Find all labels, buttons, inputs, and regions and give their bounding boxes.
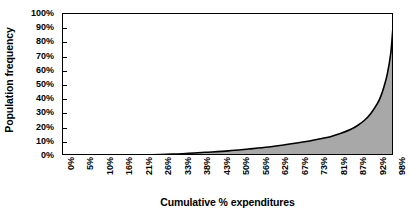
y-axis-tick-mark [63,85,67,86]
x-axis-tick-label-text: 73% [319,157,329,175]
x-axis-tick-label-text: 43% [222,157,232,175]
x-axis-tick-label-text: 0% [66,157,76,170]
x-axis-tick-label-text: 67% [300,157,310,175]
area-chart-plot [63,14,393,155]
x-axis-tick-label-text: 16% [124,157,134,175]
y-axis-title: Population frequency [0,0,18,160]
y-axis-tick-label: 80% [36,36,54,46]
x-axis-tick-label: 73% [319,157,329,175]
x-axis-tick-label-text: 10% [105,157,115,175]
x-axis-tick-labels: 0%5%10%16%21%26%33%38%43%50%56%62%67%73%… [62,157,393,193]
x-axis-tick-label: 98% [397,157,407,175]
x-axis-tick-label-text: 87% [358,157,368,175]
x-axis-tick-label: 21% [144,157,154,175]
y-axis-tick-label: 20% [36,122,54,132]
y-axis-tick-mark [63,57,67,58]
x-axis-tick-label: 43% [222,157,232,175]
x-axis-tick-label: 92% [378,157,388,175]
y-axis-tick-mark [63,128,67,129]
y-axis-tick-mark [63,142,67,143]
plot-area [62,13,393,155]
x-axis-tick-label-text: 26% [163,157,173,175]
x-axis-tick-label-text: 92% [378,157,388,175]
x-axis-tick-label: 38% [202,157,212,175]
y-axis-tick-label: 90% [36,22,54,32]
y-axis-tick-label: 10% [36,136,54,146]
x-axis-tick-label-text: 81% [339,157,349,175]
x-axis-title: Cumulative % expenditures [62,196,393,208]
x-axis-tick-label-text: 5% [85,157,95,170]
x-axis-tick-label: 50% [241,157,251,175]
x-axis-tick-label-text: 50% [241,157,251,175]
x-axis-tick-label: 87% [358,157,368,175]
x-axis-tick-label: 5% [85,157,95,170]
y-axis-tick-mark [63,42,67,43]
y-axis-tick-mark [63,28,67,29]
x-axis-tick-label: 81% [339,157,349,175]
x-axis-tick-label: 67% [300,157,310,175]
y-axis-tick-mark [63,99,67,100]
y-axis-tick-label: 30% [36,107,54,117]
x-axis-tick-label-text: 33% [183,157,193,175]
x-axis-tick-label: 16% [124,157,134,175]
x-axis-tick-label-text: 38% [202,157,212,175]
y-axis-title-text: Population frequency [3,27,15,132]
area-series-fill [63,14,393,155]
y-axis-tick-label: 100% [31,8,54,18]
y-axis-tick-label: 50% [36,79,54,89]
x-axis-tick-label: 62% [280,157,290,175]
x-axis-tick-label: 33% [183,157,193,175]
y-axis-tick-mark [63,113,67,114]
x-axis-tick-label: 10% [105,157,115,175]
x-axis-tick-label-text: 62% [280,157,290,175]
y-axis-tick-label: 60% [36,65,54,75]
y-axis-tick-mark [63,71,67,72]
x-axis-tick-label-text: 21% [144,157,154,175]
y-axis-tick-label: 40% [36,93,54,103]
x-axis-tick-label-text: 98% [397,157,407,175]
y-axis-tick-label: 70% [36,51,54,61]
x-axis-tick-label: 26% [163,157,173,175]
x-axis-tick-label-text: 56% [261,157,271,175]
x-axis-tick-label: 0% [66,157,76,170]
y-axis-tick-labels: 100%90%80%70%60%50%40%30%20%10%0% [18,13,58,155]
y-axis-tick-label: 0% [41,150,54,160]
x-axis-tick-label: 56% [261,157,271,175]
chart-container: Population frequency 100%90%80%70%60%50%… [0,0,410,218]
